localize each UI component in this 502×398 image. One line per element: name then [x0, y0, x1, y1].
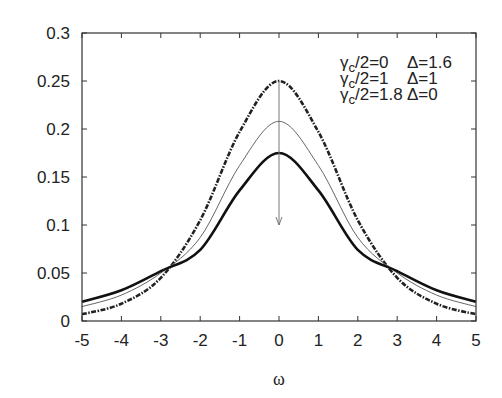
- x-tick-label: 5: [471, 331, 480, 350]
- legend-row-3: γc/2=1.8 Δ=0: [340, 85, 438, 107]
- y-tick-label: 0: [61, 312, 70, 331]
- x-tick-labels: -5-4-3-2-1012345: [74, 331, 480, 350]
- y-tick-labels: 00.050.10.150.20.250.3: [37, 24, 70, 331]
- y-tick-label: 0.1: [46, 216, 70, 235]
- x-tick-label: 0: [274, 331, 283, 350]
- legend: γc/2=0 Δ=1.6 γc/2=1 Δ=1 γc/2=1.8 Δ=0: [340, 53, 452, 107]
- y-tick-label: 0.15: [37, 168, 70, 187]
- x-tick-label: -1: [232, 331, 247, 350]
- x-tick-label: 1: [314, 331, 323, 350]
- y-tick-label: 0.25: [37, 72, 70, 91]
- legend-delta-3: Δ=0: [407, 85, 438, 104]
- x-tick-label: 2: [353, 331, 362, 350]
- x-tick-label: 3: [392, 331, 401, 350]
- y-tick-label: 0.05: [37, 264, 70, 283]
- x-axis-label: ω: [273, 369, 285, 389]
- x-tick-label: -4: [114, 331, 129, 350]
- x-tick-label: 4: [432, 331, 441, 350]
- x-tick-label: -5: [74, 331, 89, 350]
- line-chart: -5-4-3-2-1012345 00.050.10.150.20.250.3 …: [0, 0, 502, 398]
- y-tick-label: 0.2: [46, 120, 70, 139]
- y-tick-label: 0.3: [46, 24, 70, 43]
- x-tick-label: -3: [153, 331, 168, 350]
- x-tick-label: -2: [193, 331, 208, 350]
